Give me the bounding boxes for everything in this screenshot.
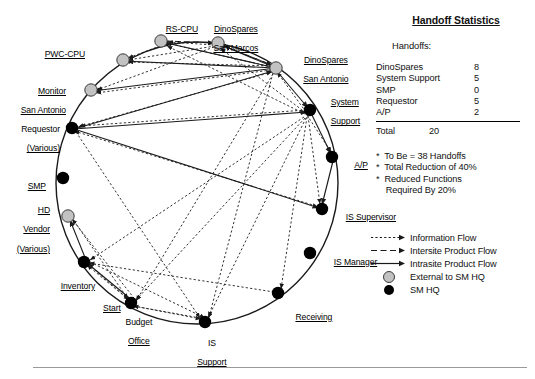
node-ap[interactable] xyxy=(326,151,338,163)
handoff-statistics-panel: Handoff Statistics Handoffs: DinoSpares … xyxy=(374,14,534,196)
label-is-support: IS Support xyxy=(180,329,230,378)
label-budget-office: Budget Office xyxy=(104,308,160,357)
black-circle-icon xyxy=(368,285,410,295)
node-system-support[interactable] xyxy=(304,104,316,116)
node-requestor[interactable] xyxy=(66,122,78,134)
node-smp[interactable] xyxy=(57,172,69,184)
row-value: 5 xyxy=(440,73,479,84)
total-label: Total xyxy=(376,126,395,137)
stats-title: Handoff Statistics xyxy=(378,14,534,26)
total-divider xyxy=(376,121,520,122)
note-line: * Reduced Functions xyxy=(376,174,534,185)
table-row: SMP 0 xyxy=(376,85,479,96)
row-value: 2 xyxy=(440,107,479,118)
handoffs-label: Handoffs: xyxy=(392,40,534,51)
label-requestor: Requestor (Various) xyxy=(0,115,60,164)
legend-item-information-flow: Information Flow xyxy=(368,231,497,244)
table-row: DinoSpares 8 xyxy=(376,62,479,73)
row-value: 8 xyxy=(440,62,479,73)
row-name: SMP xyxy=(376,85,440,96)
stats-notes: * To Be = 38 Handoffs * Total Reduction … xyxy=(376,151,534,197)
legend: Information Flow Intersite Product Flow … xyxy=(368,231,497,297)
legend-label: Intersite Product Flow xyxy=(410,246,497,256)
table-row: A/P 2 xyxy=(376,107,479,118)
legend-item-intersite-product-flow: Intersite Product Flow xyxy=(368,244,497,257)
bottom-divider xyxy=(33,367,527,368)
label-system-support: System Support xyxy=(317,88,377,137)
row-name: Requestor xyxy=(376,96,440,107)
label-pwc-cpu: PWC-CPU xyxy=(0,40,85,69)
node-is-manager[interactable] xyxy=(304,247,316,259)
row-value: 5 xyxy=(440,96,479,107)
legend-item-intrasite-product-flow: Intrasite Product Flow xyxy=(368,257,497,270)
node-hd-vendor[interactable] xyxy=(62,210,74,222)
legend-item-external-node: External to SM HQ xyxy=(368,271,497,284)
label-hd-vendor: HD Vendor (Various) xyxy=(0,196,50,265)
table-row: System Support 5 xyxy=(376,73,479,84)
grey-circle-icon xyxy=(368,271,410,283)
handoff-table: DinoSpares 8 System Support 5 SMP 0 Requ… xyxy=(376,62,479,118)
label-receiving: Receiving xyxy=(274,303,340,332)
note-line: * Total Reduction of 40% xyxy=(376,162,534,173)
diagram-page: PWC-CPU RS-CPU DinoSpares San Marcos Din… xyxy=(0,0,535,379)
total-row: Total 20 xyxy=(376,126,439,137)
row-value: 0 xyxy=(440,85,479,96)
dotted-arrow-icon xyxy=(368,233,410,242)
total-value: 20 xyxy=(395,126,439,137)
node-inventory[interactable] xyxy=(78,256,90,268)
legend-label: SM HQ xyxy=(410,285,440,295)
total-table: Total 20 xyxy=(376,126,439,137)
dashed-arrow-icon xyxy=(368,246,410,255)
legend-item-hq-node: SM HQ xyxy=(368,284,497,297)
label-ap: A/P xyxy=(341,151,371,180)
legend-label: External to SM HQ xyxy=(410,272,485,282)
label-dinospares-san-marcos: DinoSpares San Marcos xyxy=(190,15,268,64)
legend-label: Intrasite Product Flow xyxy=(410,259,497,269)
note-line: Required By 20% xyxy=(376,185,534,196)
row-name: A/P xyxy=(376,107,440,118)
label-is-supervisor: IS Supervisor xyxy=(332,203,402,232)
legend-label: Information Flow xyxy=(410,233,476,243)
node-receiving[interactable] xyxy=(272,287,284,299)
handoff-circle-diagram: PWC-CPU RS-CPU DinoSpares San Marcos Din… xyxy=(0,0,348,360)
row-name: DinoSpares xyxy=(376,62,440,73)
table-row: Requestor 5 xyxy=(376,96,479,107)
solid-arrow-icon xyxy=(368,259,410,268)
node-pwc-cpu[interactable] xyxy=(117,54,129,66)
node-is-supervisor[interactable] xyxy=(316,203,328,215)
note-line: * To Be = 38 Handoffs xyxy=(376,151,534,162)
row-name: System Support xyxy=(376,73,440,84)
node-is-support[interactable] xyxy=(199,316,211,328)
node-monitor-san-antonio[interactable] xyxy=(85,84,97,96)
